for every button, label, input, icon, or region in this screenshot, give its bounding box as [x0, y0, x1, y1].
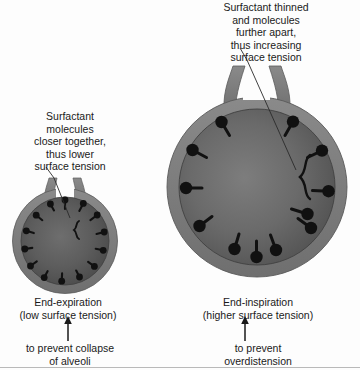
label-prevent-overdistension: to prevent overdistension [168, 342, 348, 367]
label-end-expiration: End-expiration (low surface tension) [0, 296, 136, 321]
alveolus-small-lumen [21, 197, 109, 285]
label-prevent-collapse: to prevent collapse of alveoli [0, 342, 140, 367]
annotation-right-surfactant-thinned: Surfactant thinned and molecules further… [178, 1, 354, 64]
label-end-inspiration: End-inspiration (higher surface tension) [168, 296, 348, 321]
alveolus-end-expiration [13, 167, 118, 294]
bottom-rule [0, 367, 360, 368]
alveolus-end-inspiration [167, 48, 347, 277]
annotation-left-surfactant-closer: Surfactant molecules closer together, th… [2, 110, 138, 173]
surfactant-alveoli-figure: Surfactant thinned and molecules further… [0, 0, 360, 370]
